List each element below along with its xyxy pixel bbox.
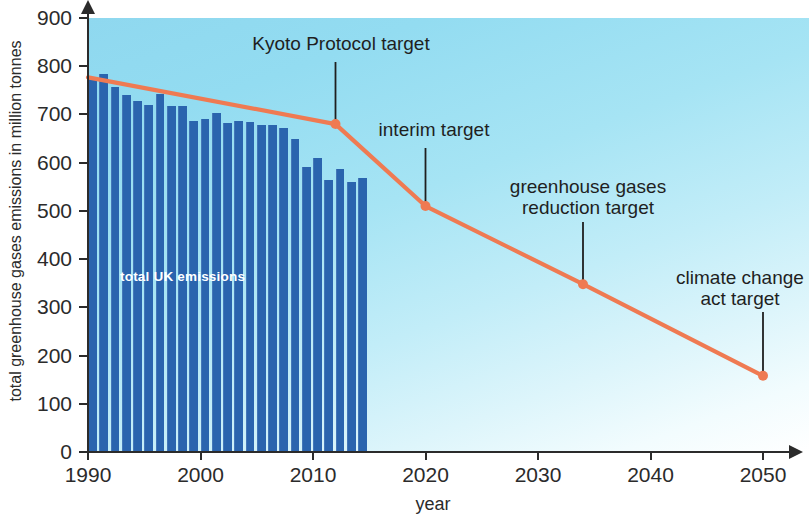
y-axis-tick <box>79 403 88 405</box>
y-axis-tick <box>79 355 88 357</box>
annotation-greenhouse-gases-reduction-target: greenhouse gases reduction target <box>495 177 681 218</box>
y-axis-tick <box>79 65 88 67</box>
x-axis-tick <box>650 451 652 460</box>
x-axis-tick <box>200 451 202 460</box>
annotation-interim-target: interim target <box>364 120 504 141</box>
y-axis-line <box>87 10 89 454</box>
y-axis-tick-label: 0 <box>8 441 72 462</box>
x-axis-tick <box>537 451 539 460</box>
y-axis-tick <box>79 162 88 164</box>
x-axis-tick <box>762 451 764 460</box>
y-axis-tick <box>79 113 88 115</box>
y-axis-tick <box>79 17 88 19</box>
x-axis-tick-label: 1990 <box>43 464 133 485</box>
x-axis-tick <box>425 451 427 460</box>
x-axis-tick-label: 2010 <box>268 464 358 485</box>
x-axis-line <box>80 451 795 453</box>
target-marker <box>421 201 431 211</box>
x-axis-tick-label: 2020 <box>381 464 471 485</box>
x-axis-arrow-icon <box>789 445 803 459</box>
x-axis-tick <box>312 451 314 460</box>
target-line-layer <box>0 0 809 526</box>
y-axis-tick <box>79 306 88 308</box>
x-axis-tick-label: 2050 <box>718 464 808 485</box>
x-axis-tick-label: 2040 <box>606 464 696 485</box>
annotation-climate-change-act-target: climate change act target <box>675 268 805 309</box>
x-axis-tick-label: 2000 <box>156 464 246 485</box>
target-marker <box>758 371 768 381</box>
x-axis-tick-label: 2030 <box>493 464 583 485</box>
y-axis-arrow-icon <box>81 0 95 14</box>
chart-root: total UK emissions Kyoto Protocol target… <box>0 0 809 526</box>
target-marker <box>331 119 341 129</box>
target-marker <box>578 279 588 289</box>
y-axis-tick <box>79 210 88 212</box>
annotation-kyoto-protocol-target: Kyoto Protocol target <box>236 34 446 55</box>
y-axis-title: total greenhouse gases emissions in mill… <box>7 1 25 441</box>
x-axis-title: year <box>383 494 483 515</box>
y-axis-tick <box>79 258 88 260</box>
x-axis-tick <box>87 451 89 460</box>
